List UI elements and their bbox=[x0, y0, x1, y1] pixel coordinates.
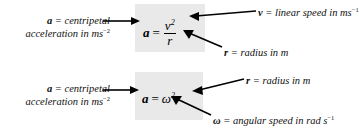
formula-a-equals-v-squared-over-r: a=v2r bbox=[143, 20, 177, 49]
diagram-centripetal-acceleration-angular-speed: a=ω2r a = centripetal acceleration in ms… bbox=[0, 66, 354, 133]
label-exponent: −2 bbox=[103, 27, 110, 34]
label-text: = radius in m bbox=[231, 47, 289, 58]
formula-fraction: v2r bbox=[163, 19, 177, 48]
label-centripetal-acceleration: a = centripetal acceleration in ms−2 bbox=[14, 82, 110, 108]
label-symbol-r: r bbox=[246, 75, 250, 86]
label-radius: r = radius in m bbox=[224, 46, 288, 59]
label-radius: r = radius in m bbox=[246, 74, 310, 87]
formula-numerator-exponent: 2 bbox=[171, 18, 175, 27]
label-text-line-1: = centripetal bbox=[55, 15, 110, 26]
label-text: = angular speed in rad s bbox=[223, 115, 327, 126]
formula-numerator: v2 bbox=[163, 19, 177, 33]
formula-a-equals-omega-squared-r: a=ω2r bbox=[142, 92, 180, 105]
formula-equals-sign: = bbox=[150, 25, 163, 40]
label-symbol-omega: ω bbox=[213, 115, 221, 126]
label-symbol-a: a bbox=[47, 15, 52, 26]
formula-radius-factor: r bbox=[175, 91, 180, 106]
label-text-line-2: acceleration in ms bbox=[26, 96, 104, 107]
label-text-line-2: acceleration in ms bbox=[26, 28, 104, 39]
formula-lhs-symbol: a bbox=[143, 25, 150, 40]
formula-omega-base: ω bbox=[162, 91, 171, 106]
label-exponent: −2 bbox=[103, 95, 110, 102]
label-exponent: −1 bbox=[352, 6, 359, 13]
formula-lhs-symbol: a bbox=[142, 91, 149, 106]
label-linear-speed: v = linear speed in ms−1 bbox=[258, 6, 359, 19]
label-angular-speed: ω = angular speed in rad s−1 bbox=[213, 114, 334, 127]
formula-equals-sign: = bbox=[149, 91, 162, 106]
label-centripetal-acceleration: a = centripetal acceleration in ms−2 bbox=[14, 14, 110, 40]
label-text: = linear speed in ms bbox=[265, 7, 351, 18]
label-text-line-1: = centripetal bbox=[55, 83, 110, 94]
label-text: = radius in m bbox=[253, 75, 311, 86]
label-symbol-v: v bbox=[258, 7, 263, 18]
diagram-centripetal-acceleration-linear-speed: a=v2r a = centripetal acceleration in ms… bbox=[0, 0, 354, 66]
label-symbol-r: r bbox=[224, 47, 228, 58]
formula-denominator: r bbox=[163, 34, 177, 48]
label-symbol-a: a bbox=[47, 83, 52, 94]
label-exponent: −1 bbox=[327, 114, 334, 121]
